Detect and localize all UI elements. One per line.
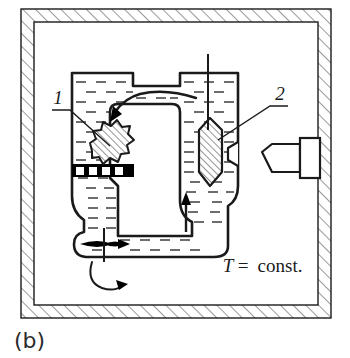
condition-variable: T bbox=[223, 255, 235, 276]
condition-equals: = bbox=[238, 255, 249, 276]
rotation-arrow bbox=[90, 262, 128, 290]
callout-1-label: 1 bbox=[53, 87, 63, 108]
nozzle-assembly bbox=[262, 138, 320, 178]
diagram-canvas: 1 2 T = const. (b) bbox=[0, 0, 350, 358]
nozzle-mount-block bbox=[300, 138, 320, 178]
perforated-plate bbox=[72, 164, 134, 177]
nozzle-tip bbox=[262, 144, 300, 172]
figure-panel-b: 1 2 T = const. (b) bbox=[0, 0, 350, 358]
right-plug-shape bbox=[199, 118, 222, 186]
callout-2-label: 2 bbox=[275, 83, 285, 104]
condition-annotation: T = const. bbox=[223, 255, 303, 276]
right-plug-body bbox=[199, 118, 222, 186]
rotation-arrow-path bbox=[90, 262, 122, 290]
condition-value: const. bbox=[258, 255, 303, 276]
panel-label: (b) bbox=[14, 328, 45, 353]
callout-2-leader bbox=[218, 106, 288, 140]
flow-arrow-right-head bbox=[181, 192, 191, 205]
